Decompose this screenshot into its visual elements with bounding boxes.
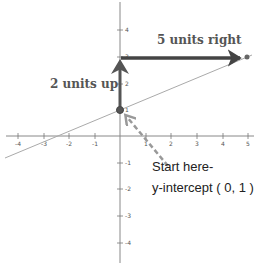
y-tick-label: -4: [125, 239, 131, 246]
x-tick-label: 2: [169, 140, 173, 147]
end-point-marker: [245, 55, 250, 60]
y-intercept-label: y-intercept ( 0, 1 ): [152, 180, 254, 195]
y-tick-label: -2: [125, 185, 131, 192]
x-tick-label: 3: [195, 140, 199, 147]
rise-label: 2 units up: [50, 77, 118, 91]
y-tick-label: 4: [125, 26, 129, 33]
y-tick-label: 2: [125, 80, 129, 87]
y-intercept-point: [117, 107, 124, 114]
start-here-label: Start here-: [152, 159, 213, 174]
x-tick-label: -2: [66, 140, 72, 147]
y-axis: 4 3 2 1 -1 -2 -3 -4: [117, 2, 131, 263]
x-axis: -4 -3 -2 -1 1 2 3 4 5: [6, 133, 254, 147]
graphed-line: [5, 55, 252, 158]
run-label: 5 units right: [157, 33, 242, 47]
y-tick-label: -3: [125, 212, 131, 219]
x-tick-label: 5: [246, 140, 250, 147]
x-tick-label: 4: [221, 140, 225, 147]
x-tick-label: -4: [15, 140, 21, 147]
coordinate-graph: -4 -3 -2 -1 1 2 3 4 5 4 3 2 1 -1 -2 -3 -…: [0, 0, 257, 265]
x-tick-label: -1: [92, 140, 98, 147]
y-tick-label: -1: [125, 159, 131, 166]
